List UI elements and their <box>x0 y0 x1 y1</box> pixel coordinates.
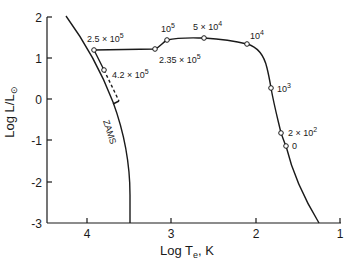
x-tick-labels: 4 3 2 1 <box>84 227 344 241</box>
annotation-0: 0 <box>292 141 297 151</box>
point-5e4 <box>202 36 207 41</box>
track-points <box>92 36 289 149</box>
x-tick-label: 4 <box>84 227 91 241</box>
y-tick-label: 1 <box>35 52 42 66</box>
point-1e3 <box>269 86 274 91</box>
annotation-1e5: 105 <box>161 22 175 34</box>
x-tick-label: 3 <box>168 227 175 241</box>
point-2e2 <box>279 131 284 136</box>
main-track-curve <box>94 38 319 223</box>
point-1e5 <box>165 38 170 43</box>
point-2.5e5 <box>92 48 97 53</box>
x-tick-label: 1 <box>337 227 344 241</box>
y-tick-label: 0 <box>35 93 42 107</box>
axes <box>47 17 341 223</box>
y-axis-title: Log L/L⊙ <box>2 86 19 137</box>
y-tick-label: 2 <box>35 11 42 25</box>
x-axis-title: Log Te, K <box>160 243 214 260</box>
y-tick-label: -3 <box>31 217 42 231</box>
annotation-4.2e5: 4.2 × 105 <box>112 68 149 80</box>
early-track-solid <box>94 50 104 70</box>
annotation-1e3: 103 <box>277 82 291 94</box>
annotation-2e2: 2 × 102 <box>288 126 317 138</box>
annotation-2.5e5: 2.5 × 105 <box>87 32 124 44</box>
point-4.2e5 <box>102 68 107 73</box>
zams-label: ZAMS <box>101 119 118 146</box>
zams-curve <box>66 16 130 223</box>
hr-diagram-chart: 2 1 0 -1 -2 -3 4 3 2 1 Log Te, K Log L/L… <box>0 0 352 262</box>
annotation-5e4: 5 × 104 <box>193 20 222 32</box>
point-2.35e5 <box>153 47 158 52</box>
y-tick-labels: 2 1 0 -1 -2 -3 <box>31 11 42 231</box>
annotation-2.35e5: 2.35 × 105 <box>159 53 201 65</box>
y-tick-label: -1 <box>31 134 42 148</box>
point-1e4 <box>245 42 250 47</box>
point-0 <box>284 144 289 149</box>
y-tick-label: -2 <box>31 176 42 190</box>
annotation-1e4: 104 <box>250 29 264 41</box>
x-tick-label: 2 <box>253 227 260 241</box>
